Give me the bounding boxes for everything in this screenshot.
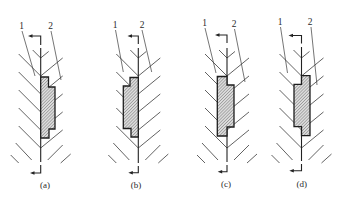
subfigure-d: 1 2 (d) <box>272 17 332 189</box>
section-hatch-line-right <box>41 51 49 58</box>
section-hatch-line-left <box>19 72 41 94</box>
section-hatch-line <box>48 145 63 160</box>
section-hatch-line-left <box>219 50 227 58</box>
section-hatch-line-left <box>19 126 41 148</box>
hatched-seal-part <box>41 77 55 138</box>
leader-line-2 <box>311 27 317 85</box>
hatched-seal-part <box>123 78 138 138</box>
subfigure-a: 1 2 (a) <box>11 21 71 190</box>
part-label-2: 2 <box>308 17 313 27</box>
section-hatch-line-left <box>33 50 41 58</box>
subfigure-a-geometry <box>11 31 71 175</box>
part-label-2: 2 <box>140 20 145 30</box>
subfigure-caption: (b) <box>131 180 142 190</box>
section-hatch-line-right <box>138 94 160 112</box>
section-hatch-line-right <box>227 130 249 148</box>
arrowhead-left-icon <box>215 33 220 37</box>
leader-line-1 <box>116 30 124 72</box>
subfigure-c: 1 2 (c) <box>197 18 257 189</box>
arrowhead-left-icon <box>28 34 33 38</box>
leader-line-2 <box>51 31 61 80</box>
diagram-canvas: 1 2 (a) 1 2 (b) 1 2 (c) 1 2 (d) <box>0 0 343 208</box>
arrowhead-left-icon <box>289 169 294 173</box>
arrowhead-left-icon <box>289 34 294 38</box>
part-label-1: 1 <box>113 20 118 30</box>
section-hatch-line-left <box>116 54 138 76</box>
leader-line-1 <box>281 27 288 73</box>
section-hatch-line <box>277 143 293 160</box>
section-hatch-line <box>113 143 129 160</box>
section-hatch-line <box>197 155 205 163</box>
leader-line-2 <box>235 29 246 82</box>
part-label-2: 2 <box>48 21 53 31</box>
section-hatch-line-right <box>227 51 235 58</box>
section-hatch-line-right <box>302 51 310 58</box>
section-hatch-line-left <box>280 54 302 76</box>
arrowhead-left-icon <box>30 171 35 175</box>
part-label-1: 1 <box>19 21 24 31</box>
section-hatch-line <box>108 155 116 163</box>
section-hatch-line-right <box>227 58 249 76</box>
hatched-seal-part <box>294 76 310 136</box>
section-hatch-line-right <box>138 112 160 130</box>
section-hatch-line <box>16 143 32 160</box>
section-hatch-line <box>247 154 257 163</box>
section-hatch-line-right <box>302 58 324 76</box>
section-hatch-line <box>158 154 168 163</box>
part-label-1: 1 <box>278 17 283 27</box>
subfigure-c-geometry <box>197 28 257 174</box>
section-hatch-line-right <box>138 76 160 94</box>
section-hatch-line <box>202 143 218 160</box>
section-hatch-line <box>234 145 249 160</box>
leader-line-1 <box>205 28 216 73</box>
joint-cross-section-diagram: 1 2 (a) 1 2 (b) 1 2 (c) 1 2 (d) <box>0 0 343 208</box>
leader-line-1 <box>22 31 35 76</box>
subfigure-b-geometry <box>108 30 168 175</box>
part-label-2: 2 <box>232 19 237 29</box>
section-hatch-line <box>309 145 324 160</box>
section-hatch-line <box>145 145 160 160</box>
section-hatch-line-left <box>280 126 302 148</box>
section-hatch-line-right <box>138 130 160 148</box>
section-hatch-line-right <box>138 51 146 58</box>
section-hatch-line-left <box>130 50 138 58</box>
arrowhead-left-icon <box>218 170 223 174</box>
section-hatch-line <box>61 154 71 163</box>
section-hatch-line-left <box>294 50 302 58</box>
part-label-1: 1 <box>202 18 207 28</box>
section-hatch-line <box>272 155 280 163</box>
subfigure-caption: (a) <box>40 180 50 190</box>
subfigure-caption: (d) <box>296 179 307 189</box>
section-hatch-line-left <box>19 90 41 112</box>
subfigure-d-geometry <box>272 27 332 173</box>
subfigure-caption: (c) <box>221 179 231 189</box>
arrowhead-left-icon <box>128 34 133 38</box>
subfigure-b: 1 2 (b) <box>108 20 168 190</box>
section-hatch-line <box>322 154 332 163</box>
hatched-seal-part <box>217 77 234 137</box>
section-hatch-line <box>11 155 19 163</box>
arrowhead-left-icon <box>128 171 133 175</box>
section-hatch-line-left <box>19 108 41 130</box>
leader-line-2 <box>142 30 152 72</box>
